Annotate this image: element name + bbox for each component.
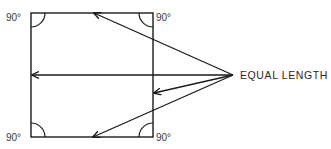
corner-arc-bottom-right — [139, 123, 153, 137]
arrow-to-right-edge — [154, 75, 233, 93]
corner-arc-bottom-left — [31, 123, 45, 137]
corner-arc-top-right — [139, 13, 153, 27]
angle-label-top-left: 90° — [6, 12, 21, 23]
arrow-to-bottom-edge — [93, 75, 233, 137]
equal-length-diagram: 90° 90° 90° 90° EQUAL LENGTH — [0, 0, 331, 149]
angle-label-bottom-right: 90° — [156, 132, 171, 143]
angle-label-top-right: 90° — [156, 12, 171, 23]
equal-length-label: EQUAL LENGTH — [240, 69, 328, 81]
corner-arc-top-left — [31, 13, 45, 27]
angle-label-bottom-left: 90° — [6, 132, 21, 143]
